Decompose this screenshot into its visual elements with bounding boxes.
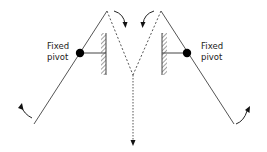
right-lever xyxy=(161,11,234,124)
displaced-position-dashed xyxy=(107,11,161,140)
right-pivot-icon xyxy=(183,49,191,57)
bottom-left-rotation-arrow xyxy=(18,103,32,118)
right-pivot-label-line1: Fixed xyxy=(201,41,223,52)
left-pivot-label-line2: pivot xyxy=(47,52,69,63)
lever-mechanism-diagram xyxy=(0,0,267,152)
left-pivot-label-line1: Fixed xyxy=(47,41,69,52)
down-arrow-icon xyxy=(131,140,136,146)
top-left-rotation-arrow xyxy=(114,11,128,28)
right-pivot-label-line2: pivot xyxy=(201,52,223,63)
right-pivot-label: Fixed pivot xyxy=(201,41,223,63)
top-right-rotation-arrow xyxy=(141,11,155,28)
left-pivot-icon xyxy=(76,49,84,57)
left-pivot-label: Fixed pivot xyxy=(47,41,69,63)
bottom-right-rotation-arrow xyxy=(236,106,250,124)
left-lever xyxy=(34,11,107,124)
